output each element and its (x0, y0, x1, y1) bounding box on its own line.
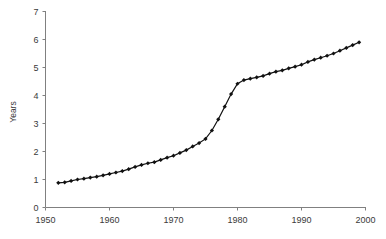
data-point-marker (299, 63, 303, 67)
data-point-marker (159, 158, 163, 162)
data-point-marker (95, 175, 99, 179)
y-axis: 01234567 Years (8, 7, 46, 213)
data-point-marker (171, 154, 175, 158)
data-point-marker (165, 156, 169, 160)
y-tick-label: 5 (33, 63, 38, 73)
x-tick-label: 1960 (99, 215, 119, 225)
data-point-marker (152, 160, 156, 164)
data-point-marker (293, 65, 297, 69)
x-axis-tick-labels: 195019601970198019902000 (35, 215, 375, 225)
x-tick-label: 2000 (355, 215, 375, 225)
y-tick-label: 0 (33, 203, 38, 213)
data-point-marker (120, 169, 124, 173)
data-point-marker (338, 49, 342, 53)
x-tick-label: 1950 (35, 215, 55, 225)
y-tick-label: 2 (33, 147, 38, 157)
data-point-marker (82, 177, 86, 181)
data-point-marker (56, 181, 60, 185)
data-point-marker (178, 151, 182, 155)
y-tick-label: 7 (33, 7, 38, 17)
series-line (58, 42, 359, 183)
series-markers (56, 40, 361, 185)
y-tick-label: 3 (33, 119, 38, 129)
data-point-marker (344, 46, 348, 50)
x-tick-label: 1980 (227, 215, 247, 225)
data-point-marker (127, 167, 131, 171)
data-point-marker (139, 163, 143, 167)
data-point-marker (88, 175, 92, 179)
x-axis: 195019601970198019902000 (35, 208, 375, 225)
data-series-group (56, 40, 361, 185)
data-point-marker (331, 51, 335, 55)
data-point-marker (133, 165, 137, 169)
data-point-marker (107, 172, 111, 176)
y-tick-label: 6 (33, 35, 38, 45)
data-point-marker (114, 170, 118, 174)
data-point-marker (75, 177, 79, 181)
data-point-marker (267, 72, 271, 76)
data-point-marker (357, 40, 361, 44)
data-point-marker (63, 180, 67, 184)
data-point-marker (351, 43, 355, 47)
data-point-marker (312, 58, 316, 62)
y-tick-label: 1 (33, 175, 38, 185)
y-tick-label: 4 (33, 91, 38, 101)
y-axis-tick-labels: 01234567 (33, 7, 38, 213)
data-point-marker (101, 173, 105, 177)
data-point-marker (146, 161, 150, 165)
data-point-marker (261, 74, 265, 78)
chart-container: 01234567 Years 195019601970198019902000 (0, 0, 386, 239)
x-tick-label: 1990 (291, 215, 311, 225)
data-point-marker (248, 77, 252, 81)
data-point-marker (255, 75, 259, 79)
data-point-marker (280, 68, 284, 72)
data-point-marker (306, 60, 310, 64)
line-chart: 01234567 Years 195019601970198019902000 (0, 0, 386, 239)
data-point-marker (287, 66, 291, 70)
y-axis-title: Years (8, 101, 18, 122)
data-point-marker (274, 70, 278, 74)
x-tick-label: 1970 (163, 215, 183, 225)
data-point-marker (325, 54, 329, 58)
data-point-marker (69, 179, 73, 183)
data-point-marker (223, 105, 227, 109)
data-point-marker (319, 56, 323, 60)
